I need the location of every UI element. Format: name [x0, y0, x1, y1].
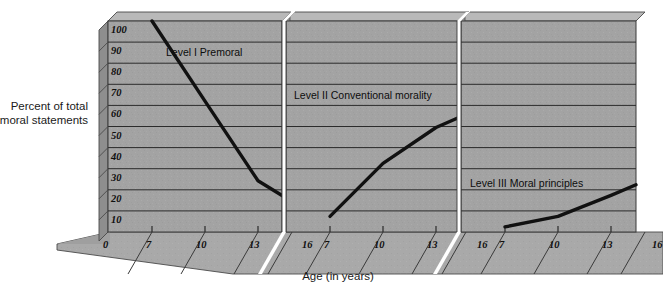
y-tick-90: 90: [111, 45, 122, 56]
chart-figure: 100 90 80 70 60 50 40 30 20 10 Level I P…: [0, 0, 663, 286]
x-tick-10-p2: 10: [374, 239, 385, 250]
chart-svg: 100 90 80 70 60 50 40 30 20 10 Level I P…: [0, 0, 663, 286]
panel-level-1: 100 90 80 70 60 50 40 30 20 10 Level I P…: [99, 12, 291, 241]
x-tick-7-p1: 7: [146, 239, 152, 250]
y-tick-30: 30: [110, 172, 122, 183]
panel-3-annotation: Level III Moral principles: [470, 177, 583, 189]
y-tick-70: 70: [111, 87, 122, 98]
x-axis-title: Age (in years): [302, 270, 374, 282]
y-axis-title: Percent of total moral statements: [0, 100, 88, 126]
x-tick-10-p3: 10: [549, 239, 560, 250]
y-tick-50: 50: [111, 130, 122, 141]
y-axis-title-line-1: Percent of total: [11, 100, 88, 112]
y-axis-title-line-2: moral statements: [0, 114, 88, 126]
y-tick-100: 100: [111, 24, 128, 35]
x-tick-7-p3: 7: [499, 239, 505, 250]
y-tick-60: 60: [111, 108, 122, 119]
x-tick-13-p3: 13: [602, 239, 613, 250]
x-tick-13-p2: 13: [427, 239, 438, 250]
y-tick-10: 10: [111, 214, 122, 225]
x-tick-13-p1: 13: [249, 239, 260, 250]
panel-level-3: Level III Moral principles: [461, 12, 645, 232]
x-tick-16-p3: 16: [652, 239, 663, 250]
y-tick-40: 40: [110, 151, 122, 162]
y-tick-80: 80: [111, 66, 122, 77]
x-tick-7-p2: 7: [324, 239, 330, 250]
x-tick-0: 0: [103, 239, 109, 250]
panel-1-annotation: Level I Premoral: [166, 46, 242, 58]
y-tick-20: 20: [110, 193, 122, 204]
panel-level-2: Level II Conventional morality: [286, 12, 469, 232]
panel-2-annotation: Level II Conventional morality: [294, 89, 432, 101]
x-tick-10-p1: 10: [196, 239, 207, 250]
x-tick-16-p1: 16: [302, 239, 313, 250]
x-tick-16-p2: 16: [477, 239, 488, 250]
